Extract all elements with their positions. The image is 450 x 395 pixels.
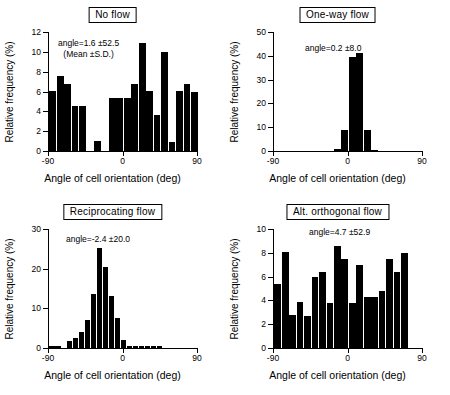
- panel-title-reciprocating-flow: Reciprocating flow: [63, 204, 162, 220]
- y-axis-title-no-flow: Relative frequency (%): [4, 32, 16, 152]
- y-axis-tick: [268, 277, 273, 278]
- histogram-bar: [115, 318, 120, 348]
- y-axis-tick-label: 6: [261, 272, 266, 281]
- y-axis-tick-label: 10: [257, 123, 266, 132]
- histogram-bar: [312, 277, 319, 348]
- histogram-bar: [169, 142, 176, 151]
- y-axis-tick-label: 20: [257, 99, 266, 108]
- histogram-bar: [109, 296, 114, 348]
- histogram-bar: [103, 267, 108, 348]
- histogram-bar: [394, 272, 401, 348]
- histogram-bar: [364, 297, 371, 348]
- y-axis-tick-label: 0: [36, 344, 41, 353]
- panel-title-no-flow: No flow: [88, 7, 137, 23]
- panel-title-alt-orthogonal-flow: Alt. orthogonal flow: [286, 204, 389, 220]
- histogram-bar: [79, 332, 84, 348]
- histogram-bar: [116, 98, 123, 151]
- x-axis-tick-label: -90: [42, 157, 54, 166]
- histogram-bar: [121, 340, 126, 348]
- bar-series-reciprocating-flow: [49, 229, 198, 348]
- y-axis-tick-label: 10: [32, 48, 41, 57]
- x-axis-title-reciprocating-flow: Angle of cell orientation (deg): [0, 369, 225, 381]
- y-axis-tick: [43, 111, 48, 112]
- histogram-bar: [157, 346, 162, 348]
- y-axis-tick-label: 8: [36, 67, 41, 76]
- histogram-bar: [401, 253, 408, 348]
- histogram-bar: [151, 346, 156, 348]
- histogram-bar: [64, 84, 71, 151]
- y-axis-tick: [268, 127, 273, 128]
- histogram-bar: [386, 259, 393, 348]
- y-axis-tick: [43, 92, 48, 93]
- x-axis-title-one-way-flow: Angle of cell orientation (deg): [225, 172, 450, 184]
- y-axis-tick: [43, 72, 48, 73]
- histogram-bar: [109, 98, 116, 151]
- histogram-bar: [379, 291, 386, 348]
- y-axis-tick-label: 10: [32, 304, 41, 313]
- histogram-bar: [57, 76, 64, 151]
- histogram-bar: [85, 320, 90, 348]
- histogram-bar: [176, 91, 183, 151]
- y-axis-tick: [43, 308, 48, 309]
- y-axis-tick-label: 12: [32, 28, 41, 37]
- y-axis-tick: [268, 103, 273, 104]
- histogram-bar: [133, 346, 138, 348]
- y-axis-tick-label: 2: [36, 127, 41, 136]
- y-axis-tick: [268, 32, 273, 33]
- y-axis-title-reciprocating-flow: Relative frequency (%): [4, 229, 16, 349]
- y-axis-tick: [43, 131, 48, 132]
- histogram-bar: [146, 91, 153, 151]
- y-axis-tick: [268, 56, 273, 57]
- histogram-bar: [184, 84, 191, 151]
- bar-series-one-way-flow: [274, 32, 423, 151]
- y-axis-tick-label: 0: [261, 344, 266, 353]
- x-axis-tick-label: 0: [120, 157, 125, 166]
- y-axis-tick-label: 30: [257, 75, 266, 84]
- x-axis-tick-label: -90: [267, 354, 279, 363]
- histogram-bar: [289, 315, 296, 348]
- histogram-bar: [371, 297, 378, 348]
- histogram-bar: [334, 149, 341, 151]
- histogram-bar: [371, 150, 378, 151]
- histogram-bar: [319, 272, 326, 348]
- y-axis-tick-label: 0: [36, 147, 41, 156]
- histogram-bar: [364, 130, 371, 151]
- x-axis-title-alt-orthogonal-flow: Angle of cell orientation (deg): [225, 369, 450, 381]
- y-axis-tick-label: 0: [261, 147, 266, 156]
- y-axis-tick: [43, 32, 48, 33]
- histogram-bar: [139, 43, 146, 151]
- plot-area-reciprocating-flow: 0102030 -90090: [48, 229, 198, 349]
- bar-series-alt-orthogonal-flow: [274, 229, 423, 348]
- histogram-bar: [349, 57, 356, 151]
- histogram-bar: [341, 130, 348, 151]
- histogram-bar: [49, 346, 54, 348]
- panel-no-flow: No flow angle=1.6 ±52.5 (Mean ±S.D.) 024…: [0, 0, 225, 197]
- histogram-bar: [145, 346, 150, 348]
- histogram-bar: [91, 294, 96, 348]
- x-axis-tick-label: 90: [417, 157, 426, 166]
- histogram-bar: [161, 52, 168, 151]
- y-axis-tick: [268, 229, 273, 230]
- y-axis-tick-label: 4: [261, 296, 266, 305]
- histogram-bar: [356, 265, 363, 348]
- histogram-bar: [139, 346, 144, 348]
- histogram-bar: [97, 248, 102, 348]
- y-axis-tick: [43, 269, 48, 270]
- histogram-bar: [356, 53, 363, 151]
- panel-reciprocating-flow: Reciprocating flow angle=-2.4 ±20.0 0102…: [0, 197, 225, 394]
- x-axis-tick-label: 0: [345, 354, 350, 363]
- histogram-bar: [274, 284, 281, 348]
- y-axis-tick-label: 50: [257, 28, 266, 37]
- histogram-bar: [127, 346, 132, 348]
- plot-area-alt-orthogonal-flow: 0246810 -90090: [273, 229, 423, 349]
- histogram-bar: [304, 316, 311, 348]
- y-axis-tick: [43, 52, 48, 53]
- figure-panel-grid: No flow angle=1.6 ±52.5 (Mean ±S.D.) 024…: [0, 0, 450, 395]
- bar-series-no-flow: [49, 32, 198, 151]
- y-axis-tick: [43, 229, 48, 230]
- x-axis-tick-label: 90: [192, 157, 201, 166]
- histogram-bar: [72, 106, 79, 151]
- plot-area-no-flow: 024681012 -90090: [48, 32, 198, 152]
- x-axis-tick-label: 0: [120, 354, 125, 363]
- histogram-bar: [94, 141, 101, 151]
